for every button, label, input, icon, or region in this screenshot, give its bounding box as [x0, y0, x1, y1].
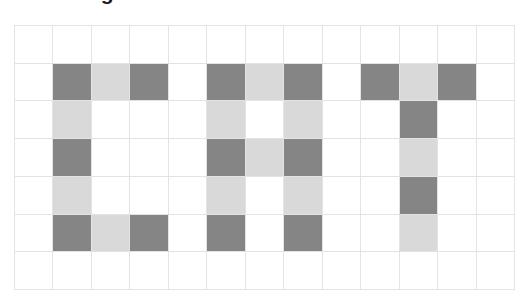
- grid-cell-empty[interactable]: [361, 101, 399, 139]
- grid-cell-empty[interactable]: [15, 215, 53, 253]
- grid-cell-empty[interactable]: [284, 252, 322, 290]
- grid-cell-empty[interactable]: [130, 252, 168, 290]
- grid-cell-empty[interactable]: [246, 215, 284, 253]
- grid-cell-dark[interactable]: [53, 215, 91, 253]
- grid-cell-empty[interactable]: [323, 177, 361, 215]
- grid-cell-dark[interactable]: [284, 64, 322, 102]
- grid-cell-light[interactable]: [92, 215, 130, 253]
- grid-cell-empty[interactable]: [130, 26, 168, 64]
- grid-cell-dark[interactable]: [130, 215, 168, 253]
- grid-cell-dark[interactable]: [207, 215, 245, 253]
- grid-cell-empty[interactable]: [169, 26, 207, 64]
- grid-cell-empty[interactable]: [15, 64, 53, 102]
- grid-cell-empty[interactable]: [438, 252, 476, 290]
- page-title: Pixel Image: [8, 0, 126, 5]
- grid-cell-empty[interactable]: [323, 101, 361, 139]
- grid-cell-light[interactable]: [246, 139, 284, 177]
- grid-cell-empty[interactable]: [130, 177, 168, 215]
- grid-cell-light[interactable]: [284, 177, 322, 215]
- grid-cell-empty[interactable]: [130, 139, 168, 177]
- grid-cell-empty[interactable]: [169, 252, 207, 290]
- grid-cell-light[interactable]: [207, 177, 245, 215]
- grid-cell-empty[interactable]: [53, 26, 91, 64]
- grid-cell-empty[interactable]: [15, 101, 53, 139]
- grid-cell-dark[interactable]: [361, 64, 399, 102]
- grid-cell-dark[interactable]: [438, 64, 476, 102]
- grid-cell-empty[interactable]: [477, 139, 515, 177]
- grid-cell-dark[interactable]: [400, 101, 438, 139]
- grid-cell-empty[interactable]: [92, 252, 130, 290]
- grid-cell-dark[interactable]: [207, 64, 245, 102]
- grid-cell-empty[interactable]: [15, 26, 53, 64]
- grid-cell-light[interactable]: [400, 215, 438, 253]
- grid-cell-empty[interactable]: [477, 64, 515, 102]
- grid-cell-light[interactable]: [284, 101, 322, 139]
- grid-cell-dark[interactable]: [284, 215, 322, 253]
- grid-cell-empty[interactable]: [15, 252, 53, 290]
- grid-cell-empty[interactable]: [207, 252, 245, 290]
- grid-cell-dark[interactable]: [53, 139, 91, 177]
- grid-cell-light[interactable]: [53, 177, 91, 215]
- pixel-grid: [14, 25, 515, 290]
- grid-cell-dark[interactable]: [207, 139, 245, 177]
- grid-cell-empty[interactable]: [169, 139, 207, 177]
- grid-cell-empty[interactable]: [92, 177, 130, 215]
- grid-cell-empty[interactable]: [246, 101, 284, 139]
- grid-cell-empty[interactable]: [169, 177, 207, 215]
- grid-cell-light[interactable]: [92, 64, 130, 102]
- grid-cell-light[interactable]: [400, 64, 438, 102]
- grid-cell-empty[interactable]: [477, 101, 515, 139]
- grid-cell-empty[interactable]: [438, 26, 476, 64]
- grid-cell-empty[interactable]: [92, 26, 130, 64]
- grid-cell-empty[interactable]: [246, 177, 284, 215]
- grid-cell-light[interactable]: [400, 139, 438, 177]
- grid-cell-empty[interactable]: [246, 26, 284, 64]
- grid-cell-empty[interactable]: [92, 139, 130, 177]
- grid-cell-empty[interactable]: [323, 64, 361, 102]
- grid-cell-empty[interactable]: [169, 101, 207, 139]
- grid-cell-empty[interactable]: [323, 26, 361, 64]
- grid-cell-empty[interactable]: [130, 101, 168, 139]
- grid-cell-empty[interactable]: [438, 215, 476, 253]
- grid-cell-empty[interactable]: [361, 177, 399, 215]
- grid-cell-empty[interactable]: [438, 177, 476, 215]
- grid-cell-dark[interactable]: [284, 139, 322, 177]
- grid-cell-empty[interactable]: [361, 26, 399, 64]
- grid-cell-empty[interactable]: [361, 252, 399, 290]
- grid-cell-dark[interactable]: [130, 64, 168, 102]
- grid-cell-empty[interactable]: [323, 215, 361, 253]
- grid-cell-empty[interactable]: [438, 101, 476, 139]
- grid-cell-empty[interactable]: [361, 139, 399, 177]
- grid-cell-light[interactable]: [246, 64, 284, 102]
- grid-cell-empty[interactable]: [15, 139, 53, 177]
- grid-cell-empty[interactable]: [438, 139, 476, 177]
- grid-cell-empty[interactable]: [323, 139, 361, 177]
- grid-cell-empty[interactable]: [361, 215, 399, 253]
- grid-cell-empty[interactable]: [169, 64, 207, 102]
- grid-cell-empty[interactable]: [477, 252, 515, 290]
- grid-cell-empty[interactable]: [284, 26, 322, 64]
- grid-cell-empty[interactable]: [53, 252, 91, 290]
- pixel-grid-container: [14, 25, 515, 290]
- grid-cell-dark[interactable]: [400, 177, 438, 215]
- grid-cell-empty[interactable]: [477, 26, 515, 64]
- grid-cell-empty[interactable]: [477, 177, 515, 215]
- grid-cell-empty[interactable]: [400, 26, 438, 64]
- grid-cell-empty[interactable]: [15, 177, 53, 215]
- grid-cell-light[interactable]: [53, 101, 91, 139]
- grid-cell-empty[interactable]: [169, 215, 207, 253]
- grid-cell-empty[interactable]: [246, 252, 284, 290]
- grid-cell-dark[interactable]: [53, 64, 91, 102]
- grid-cell-empty[interactable]: [477, 215, 515, 253]
- grid-cell-empty[interactable]: [400, 252, 438, 290]
- grid-cell-empty[interactable]: [207, 26, 245, 64]
- grid-cell-light[interactable]: [207, 101, 245, 139]
- grid-cell-empty[interactable]: [323, 252, 361, 290]
- grid-cell-empty[interactable]: [92, 101, 130, 139]
